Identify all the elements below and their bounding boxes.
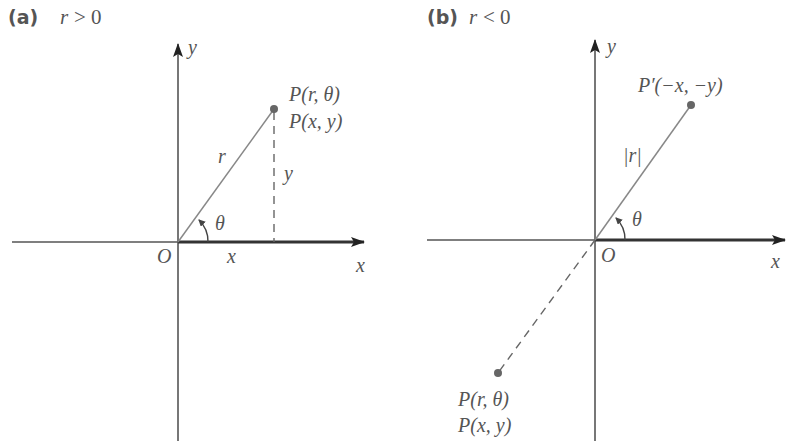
panel-b-reflected-point-label: P′(−x, −y) [637, 74, 723, 97]
panel-a: (a) r > 0 y x O r y x P(r, θ) P(x, y) θ [8, 5, 365, 441]
panel-a-angle-arc-icon [199, 220, 208, 242]
panel-a-radius-line [178, 109, 274, 242]
panel-b-radius-label: |r| [623, 144, 642, 167]
panel-b-radius-line [595, 105, 691, 240]
panel-b-point-polar-label: P(r, θ) [457, 388, 509, 411]
panel-b-condition-rel: < 0 [483, 5, 511, 29]
panel-a-origin-label: O [157, 245, 171, 267]
panel-b-angle-label: θ [632, 208, 642, 230]
panel-b: (b) r < 0 y x O |r| P′(−x, −y) P(r, θ) P… [427, 5, 785, 441]
panel-a-radius-label: r [218, 145, 226, 167]
panel-b-condition-var: r [469, 5, 478, 29]
panel-b-y-axis-label: y [605, 35, 616, 58]
polar-coordinates-diagram: (a) r > 0 y x O r y x P(r, θ) P(x, y) θ … [0, 0, 787, 441]
panel-a-x-axis-label: x [355, 254, 365, 276]
panel-a-y-component-label: y [282, 162, 293, 185]
panel-a-x-component-label: x [226, 245, 236, 267]
panel-a-label: (a) [8, 6, 38, 28]
panel-a-condition-rel: > 0 [74, 5, 102, 29]
panel-a-point-cart-label: P(x, y) [288, 110, 343, 133]
panel-b-point-cart-label: P(x, y) [457, 414, 512, 437]
panel-a-condition-var: r [60, 5, 69, 29]
panel-b-negative-radius-line [498, 240, 595, 373]
panel-b-angle-arc-icon [616, 218, 625, 240]
panel-b-origin-label: O [601, 244, 615, 266]
panel-b-point [494, 369, 502, 377]
panel-a-y-axis-label: y [186, 36, 197, 59]
panel-a-point [270, 105, 278, 113]
panel-b-x-axis-label: x [770, 250, 780, 272]
panel-a-point-polar-label: P(r, θ) [288, 83, 340, 106]
panel-b-reflected-point [687, 101, 695, 109]
panel-a-angle-label: θ [215, 212, 225, 234]
panel-b-label: (b) [427, 6, 458, 28]
